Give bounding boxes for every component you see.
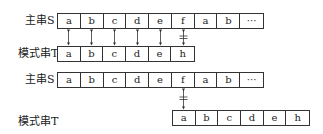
not-equal-arrow-icon bbox=[180, 31, 188, 44]
comparison-arrows bbox=[0, 0, 323, 134]
double-arrow-icon bbox=[69, 31, 161, 44]
not-equal-arrow-icon bbox=[180, 90, 188, 108]
